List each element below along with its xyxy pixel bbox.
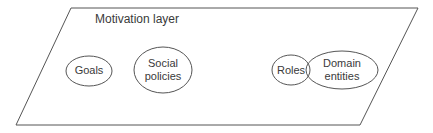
node-label: Roles [271, 64, 311, 77]
node-label: Goals [66, 64, 112, 77]
node-domain-entities: Domain entities [306, 57, 378, 83]
node-label-line1: Domain [306, 57, 378, 70]
layer-title: Motivation layer [95, 13, 179, 26]
node-label-line2: policies [134, 70, 192, 83]
node-goals: Goals [66, 64, 112, 77]
node-roles: Roles [271, 64, 311, 77]
node-social-policies: Social policies [134, 57, 192, 83]
node-label-line1: Social [134, 57, 192, 70]
node-label-line2: entities [306, 70, 378, 83]
